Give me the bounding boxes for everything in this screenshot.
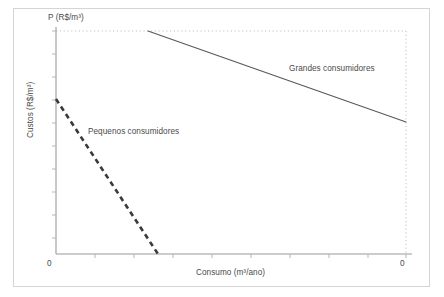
x-axis-title: Consumo (m³/ano) xyxy=(196,268,265,277)
x-axis-tick-label-right: 0 xyxy=(400,259,405,268)
x-axis-tick-label-origin: 0 xyxy=(47,259,52,268)
x-axis-ticks xyxy=(95,254,406,258)
y-axis-ticks xyxy=(52,31,56,238)
y-axis-title: Custos (R$/m³) xyxy=(26,82,35,138)
series-label-pequenos-consumidores: Pequenos consumidores xyxy=(88,127,179,136)
series-label-grandes-consumidores: Grandes consumidores xyxy=(289,64,375,73)
figure-container: P (R$/m³) Custos (R$/m³) Consumo (m³/ano… xyxy=(0,0,444,297)
series-line-pequenos-consumidores xyxy=(56,99,158,254)
p-axis-title: P (R$/m³) xyxy=(48,13,84,22)
series-line-grandes-consumidores xyxy=(148,31,406,122)
chart-plot-area xyxy=(0,0,444,297)
